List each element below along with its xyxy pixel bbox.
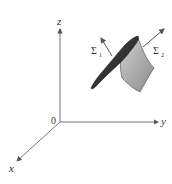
svg-text:Σ: Σ <box>91 45 97 56</box>
origin-label: 0 <box>51 115 56 126</box>
sigma-1-label: Σ 1 <box>91 45 102 58</box>
y-axis-label: y <box>160 115 166 127</box>
x-axis-label: x <box>8 162 14 174</box>
diagram-canvas: z y x 0 Σ 1 Σ 2 <box>0 0 172 184</box>
normal-arrow-sigma-1 <box>101 38 112 56</box>
svg-text:Σ: Σ <box>153 45 159 56</box>
svg-text:1: 1 <box>99 52 102 58</box>
z-axis-label: z <box>56 15 62 27</box>
x-axis <box>17 122 60 161</box>
svg-text:2: 2 <box>161 52 164 58</box>
diagram: z y x 0 Σ 1 Σ 2 <box>0 0 172 184</box>
sigma-2-label: Σ 2 <box>153 45 164 58</box>
